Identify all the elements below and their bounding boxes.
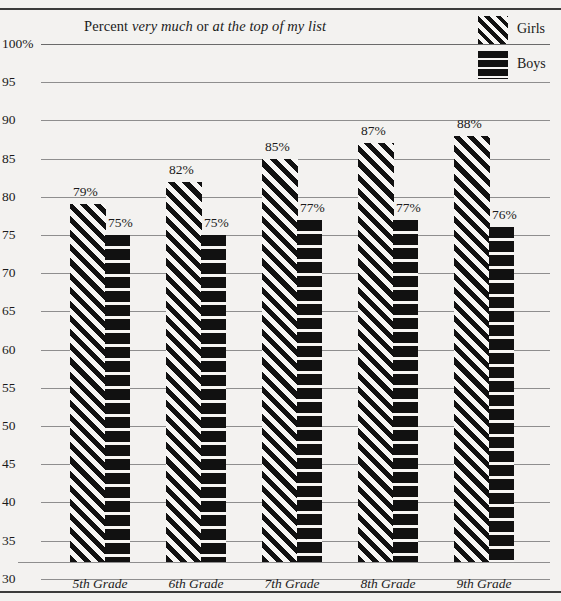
bar-value-label: 82% — [169, 162, 194, 178]
bar-value-label: 75% — [108, 215, 133, 231]
horizontal-bands-swatch — [478, 51, 508, 79]
legend-label: Girls — [517, 21, 545, 37]
bar-value-label: 77% — [300, 200, 325, 216]
axis-baseline — [18, 562, 550, 563]
x-axis-tick-label: 8th Grade — [338, 576, 438, 592]
bar-group: 88%76% — [454, 561, 514, 562]
x-axis-tick-label: 7th Grade — [242, 576, 342, 592]
bar-group: 82%75% — [166, 561, 226, 562]
bar-group: 85%77% — [262, 561, 322, 562]
bar-value-label: 87% — [361, 123, 386, 139]
chart-title: Percent very much or at the top of my li… — [84, 18, 326, 35]
x-axis-tick-label: 6th Grade — [146, 576, 246, 592]
legend-label: Boys — [517, 56, 546, 72]
bar-boys-5th-grade — [105, 235, 130, 562]
x-axis-tick-label: 5th Grade — [50, 576, 150, 592]
chart-title-text: or — [193, 18, 213, 34]
legend-item-boys: Boys — [475, 51, 561, 81]
bar-boys-6th-grade — [201, 235, 226, 562]
chart-title-emphasis: at the top of my list — [213, 18, 327, 34]
y-axis-tick-label: 45 — [2, 456, 16, 472]
y-axis-tick-label: 50 — [2, 418, 16, 434]
y-axis-tick-label: 100% — [2, 36, 34, 52]
bar-girls-8th-grade — [358, 143, 394, 562]
y-axis-tick-label: 70 — [2, 265, 16, 281]
y-axis-tick-label: 30 — [2, 571, 16, 587]
y-axis-tick-label: 80 — [2, 189, 16, 205]
y-axis-tick-label: 65 — [2, 303, 16, 319]
chart-title-emphasis: very much — [132, 18, 193, 34]
y-axis-tick-label: 95 — [2, 74, 16, 90]
bar-value-label: 76% — [492, 207, 517, 223]
bar-value-label: 79% — [73, 184, 98, 200]
bar-value-label: 88% — [457, 116, 482, 132]
legend: GirlsBoys — [475, 16, 561, 88]
bar-boys-7th-grade — [297, 220, 322, 562]
bar-chart: Percent very much or at the top of my li… — [0, 10, 561, 591]
bar-girls-9th-grade — [454, 136, 490, 562]
diagonal-stripes-swatch — [478, 16, 508, 44]
y-axis-tick-label: 60 — [2, 342, 16, 358]
bar-girls-7th-grade — [262, 159, 298, 562]
y-axis-tick-label: 55 — [2, 380, 16, 396]
legend-item-girls: Girls — [475, 16, 561, 46]
y-axis-tick-label: 40 — [2, 494, 16, 510]
bar-group: 87%77% — [358, 561, 418, 562]
y-axis-tick-label: 35 — [2, 533, 16, 549]
chart-title-text: Percent — [84, 18, 132, 34]
bar-value-label: 75% — [204, 215, 229, 231]
y-axis-tick-label: 90 — [2, 112, 16, 128]
gridline — [41, 44, 550, 45]
bar-value-label: 77% — [396, 200, 421, 216]
y-axis-tick-label: 85 — [2, 151, 16, 167]
bar-boys-8th-grade — [393, 220, 418, 562]
y-axis-tick-label: 75 — [2, 227, 16, 243]
gridline — [41, 82, 550, 83]
bar-girls-5th-grade — [70, 204, 106, 562]
y-axis-labels: 100%9590858075706560555045403530 — [0, 10, 38, 591]
x-axis-tick-label: 9th Grade — [434, 576, 534, 592]
bar-value-label: 85% — [265, 139, 290, 155]
bar-girls-6th-grade — [166, 182, 202, 562]
bar-group: 79%75% — [70, 561, 130, 562]
bar-boys-9th-grade — [489, 227, 514, 562]
